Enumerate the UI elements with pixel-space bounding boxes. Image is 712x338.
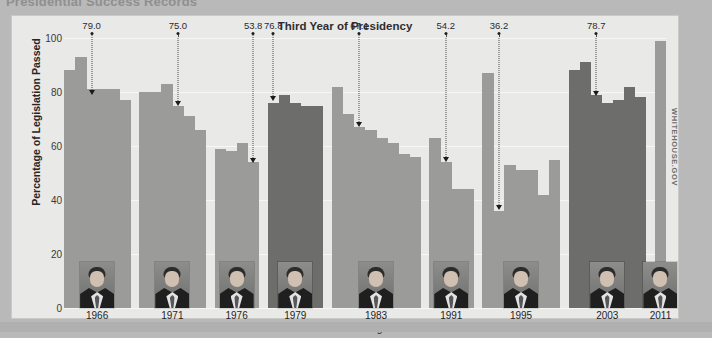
annotation-value: 78.7 [587, 20, 606, 31]
bar-group-clinton[interactable] [482, 38, 559, 308]
x-label-year: 1979 [281, 310, 309, 323]
annotation-stem [273, 35, 274, 96]
bar[interactable] [194, 130, 206, 308]
x-label-year: 1966 [78, 310, 116, 323]
annotation-arrow [89, 90, 95, 95]
x-label-year: 2011 [642, 310, 679, 323]
annotation-arrow [356, 122, 362, 127]
annotation-stem [253, 35, 254, 158]
gridline [64, 308, 666, 309]
portrait-johnson [80, 262, 114, 308]
bar-group-nixon[interactable] [139, 38, 205, 308]
bar[interactable] [549, 160, 561, 309]
bar[interactable] [538, 195, 550, 308]
bar[interactable] [482, 73, 494, 308]
annotation-stem [359, 35, 360, 122]
annotation-value: 67.1 [350, 20, 369, 31]
x-label-year: 1983 [359, 310, 394, 323]
bar-group-reagan[interactable] [332, 38, 420, 308]
bar[interactable] [569, 70, 581, 308]
annotation-value: 53.8 [244, 20, 263, 31]
plot-area: 02040608010079.075.053.876.867.154.236.2… [64, 38, 666, 308]
annotation-stem [177, 35, 178, 101]
annotation-arrow [443, 157, 449, 162]
portrait-nixon [155, 262, 189, 308]
x-label-year: 1995 [505, 310, 536, 323]
annotation-arrow [250, 158, 256, 163]
annotation-stem [91, 35, 92, 90]
bar[interactable] [332, 87, 344, 308]
bar-group-obama[interactable] [655, 38, 666, 308]
portrait-ford [220, 262, 254, 308]
y-axis-tick-0: 0 [22, 303, 62, 314]
annotation-arrow [496, 205, 502, 210]
bar-group-carter[interactable] [268, 38, 323, 308]
bar[interactable] [398, 154, 410, 308]
portrait-carter [278, 262, 312, 308]
bar[interactable] [409, 157, 421, 308]
y-axis-tick-80: 80 [22, 87, 62, 98]
annotation-value: 36.2 [490, 20, 509, 31]
bar[interactable] [343, 114, 355, 308]
bar-group-johnson[interactable] [64, 38, 130, 308]
chart-card: Third Year of Presidency Percentage of L… [12, 16, 678, 318]
watermark: WHITEHOUSE.GOV [670, 108, 679, 186]
y-axis-tick-60: 60 [22, 141, 62, 152]
bar-group-g-h-w-bush[interactable] [429, 38, 473, 308]
x-label-year: 1976 [225, 310, 247, 323]
x-label-year: 1991 [422, 310, 480, 323]
bar[interactable] [139, 92, 151, 308]
annotation-value: 54.2 [437, 20, 456, 31]
portrait-obama [643, 262, 677, 308]
page-bottom-strip [0, 322, 712, 332]
chart-title: Third Year of Presidency [12, 20, 678, 32]
bar[interactable] [64, 70, 76, 308]
annotation-arrow [175, 101, 181, 106]
annotation-value: 76.8 [264, 20, 283, 31]
annotation-stem [596, 35, 597, 91]
y-axis-tick-40: 40 [22, 195, 62, 206]
annotation-value: 79.0 [82, 20, 101, 31]
bar-group-g-w-bush[interactable] [569, 38, 646, 308]
annotation-value: 75.0 [169, 20, 188, 31]
y-axis-tick-20: 20 [22, 249, 62, 260]
annotation-stem [498, 35, 499, 205]
bar[interactable] [624, 87, 636, 308]
bar[interactable] [312, 106, 324, 309]
annotation-arrow [593, 91, 599, 96]
portrait-g-w-bush [590, 262, 624, 308]
x-label-year: 1971 [160, 310, 186, 323]
portrait-reagan [359, 262, 393, 308]
annotation-arrow [270, 96, 276, 101]
bar[interactable] [119, 100, 131, 308]
portrait-g-h-w-bush [434, 262, 468, 308]
x-label-year: 2003 [583, 310, 631, 323]
portrait-clinton [504, 262, 538, 308]
annotation-stem [445, 35, 446, 157]
y-axis-tick-100: 100 [22, 33, 62, 44]
